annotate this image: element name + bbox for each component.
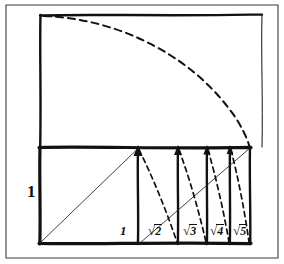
outer-frame	[6, 5, 278, 258]
radicand-5: 5	[239, 224, 247, 237]
band-top-bar	[39, 147, 251, 148]
figure-root: 1 1 √2 √3 √4 √5	[0, 0, 284, 264]
segment-label-1: 1	[120, 224, 127, 237]
segment-label-root-five: √5	[233, 224, 247, 237]
radicand-3: 3	[189, 224, 197, 237]
radicand-2: 2	[154, 224, 162, 237]
upper-right-vertical-edge	[262, 15, 263, 147]
segment-label-root-two: √2	[148, 224, 162, 237]
baseline	[39, 243, 251, 244]
quarter-circle-arc	[44, 16, 250, 148]
axis-unit-label: 1	[27, 183, 36, 200]
radicand-4: 4	[216, 224, 224, 237]
segment-label-root-four: √4	[210, 224, 224, 237]
segment-label-root-three: √3	[183, 224, 197, 237]
upper-top-edge	[40, 15, 262, 16]
band-right-edge	[250, 147, 251, 244]
